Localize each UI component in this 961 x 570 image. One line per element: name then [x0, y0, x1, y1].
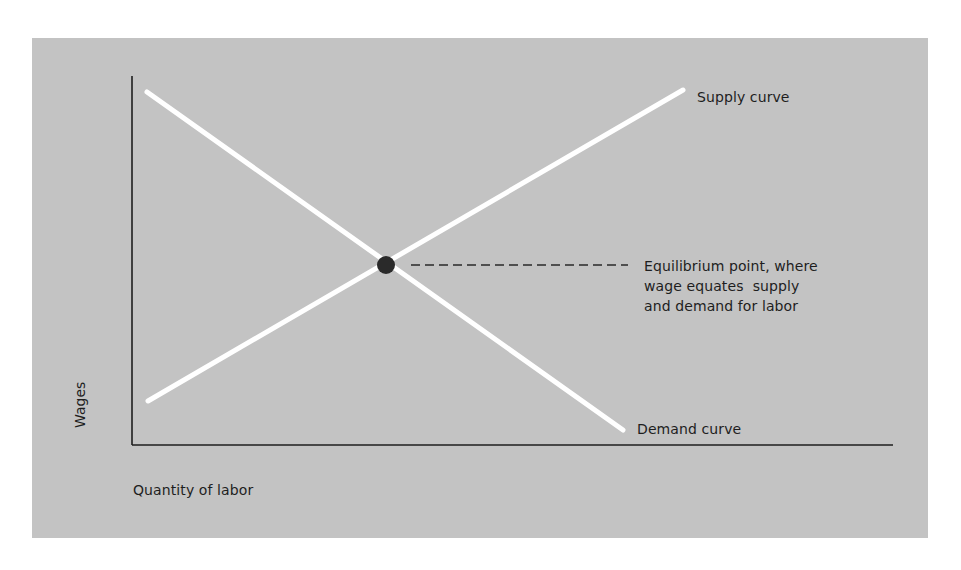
- equilibrium-annotation-line-1: Equilibrium point, where: [644, 256, 818, 276]
- equilibrium-point: [377, 256, 395, 274]
- equilibrium-annotation-line-2: wage equates supply: [644, 276, 818, 296]
- supply-curve-label: Supply curve: [697, 89, 790, 105]
- equilibrium-annotation-line-3: and demand for labor: [644, 296, 818, 316]
- y-axis-label: Wages: [72, 382, 88, 428]
- equilibrium-annotation: Equilibrium point, where wage equates su…: [644, 256, 818, 316]
- x-axis-label: Quantity of labor: [133, 482, 253, 498]
- supply-curve: [148, 90, 683, 401]
- demand-curve-label: Demand curve: [637, 421, 741, 437]
